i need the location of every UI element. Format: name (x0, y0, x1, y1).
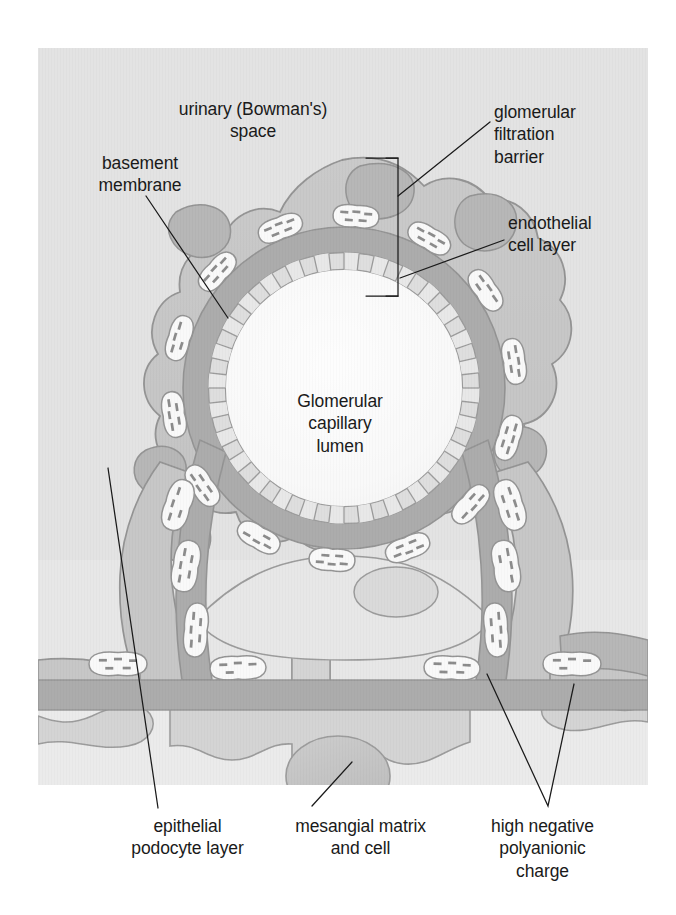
label-mesangial: mesangial matrix and cell (263, 815, 458, 860)
label-epithelial-podocyte: epithelial podocyte layer (95, 815, 280, 860)
label-urinary-space: urinary (Bowman's) space (148, 98, 358, 143)
label-filtration-barrier: glomerular filtration barrier (494, 101, 654, 168)
label-polyanionic-charge: high negative polyanionic charge (455, 815, 630, 882)
figure-root: urinary (Bowman's) space basement membra… (0, 0, 676, 915)
label-capillary-lumen: Glomerular capillary lumen (245, 390, 435, 457)
label-basement-membrane: basement membrane (60, 152, 220, 197)
label-endothelial-cell-layer: endothelial cell layer (508, 212, 658, 257)
